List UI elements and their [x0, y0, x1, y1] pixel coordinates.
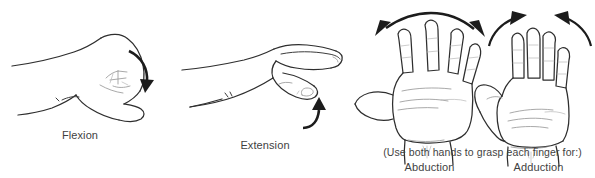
figure-flexion-fist — [12, 34, 154, 121]
figure-adduction-hand — [475, 11, 591, 166]
label-abduction: Abduction — [372, 161, 487, 174]
figure-abduction-hand — [355, 13, 485, 165]
label-flexion: Flexion — [0, 129, 160, 142]
label-grasp-instruction: (Use both hands to grasp each finger for… — [370, 146, 595, 159]
hand-rom-diagram: Flexion Extension (Use both hands to gra… — [0, 0, 595, 178]
label-extension: Extension — [185, 139, 345, 152]
label-adduction: Adduction — [482, 161, 595, 174]
figure-extension-hand — [182, 45, 342, 128]
